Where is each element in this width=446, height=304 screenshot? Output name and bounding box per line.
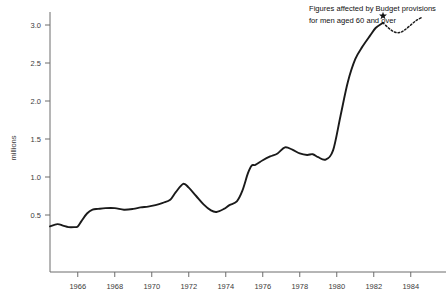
y-axis-tick-label: 1.0 — [31, 173, 41, 182]
x-axis-tick-label: 1970 — [143, 282, 160, 291]
y-axis-tick-label: 0.5 — [31, 211, 41, 220]
line-chart: 0.51.01.52.02.53.01966196819701972197419… — [0, 0, 446, 304]
y-axis-tick-label: 2.5 — [31, 59, 41, 68]
tick-label-layer: 0.51.01.52.02.53.01966196819701972197419… — [31, 21, 420, 291]
x-axis-tick-label: 1976 — [254, 282, 271, 291]
series-line-main — [50, 23, 383, 228]
axis-layer — [50, 12, 446, 272]
y-axis-title: millions — [9, 135, 18, 160]
x-axis-tick-label: 1980 — [328, 282, 345, 291]
x-axis-tick-label: 1984 — [402, 282, 419, 291]
x-axis-tick-label: 1966 — [69, 282, 86, 291]
annotation-line-2: for men aged 60 and over — [309, 16, 396, 25]
tick-layer — [45, 25, 411, 277]
y-axis-tick-label: 1.5 — [31, 135, 41, 144]
x-axis-tick-label: 1968 — [106, 282, 123, 291]
chart-container: 0.51.01.52.02.53.01966196819701972197419… — [0, 0, 446, 304]
annotation-line-1: Figures affected by Budget provisions — [309, 4, 436, 13]
x-axis-tick-label: 1982 — [365, 282, 382, 291]
y-axis-tick-label: 2.0 — [31, 97, 41, 106]
x-axis-tick-label: 1972 — [180, 282, 197, 291]
data-series-layer — [50, 17, 422, 227]
chart-axes — [50, 12, 446, 272]
y-axis-tick-label: 3.0 — [31, 21, 41, 30]
annotation-layer: Figures affected by Budget provisions fo… — [309, 4, 436, 25]
x-axis-tick-label: 1974 — [217, 282, 234, 291]
x-axis-tick-label: 1978 — [291, 282, 308, 291]
